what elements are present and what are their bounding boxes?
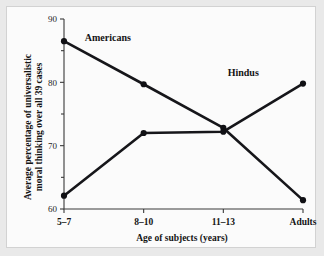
data-point-hindus-1 (141, 130, 147, 136)
x-category-label: 11–13 (212, 217, 235, 227)
data-point-hindus-0 (61, 193, 67, 199)
x-category-label: 8–10 (134, 217, 153, 227)
data-point-hindus-3 (300, 81, 306, 87)
data-point-hindus-2 (220, 129, 226, 135)
y-axis-tick-labels: 60708090 (48, 14, 58, 214)
series-label-americans: Americans (85, 32, 131, 43)
series-label-hindus: Hindus (228, 67, 259, 78)
figure-frame: 60708090 5–78–1011–13Adults AmericansHin… (6, 6, 316, 248)
series-line-hindus (64, 84, 303, 196)
series-annotations: AmericansHindus (85, 32, 259, 78)
line-chart-svg: 60708090 5–78–1011–13Adults AmericansHin… (7, 7, 317, 249)
y-axis-ticks (60, 19, 64, 209)
y-tick-label: 70 (48, 141, 58, 151)
axis-lines (64, 19, 303, 209)
x-axis-title: Age of subjects (years) (136, 233, 228, 244)
chart-series (64, 41, 303, 200)
y-axis-title-line2: moral thinking over all 39 cases (34, 63, 44, 192)
y-axis-title-line1: Average percentage of universalistic (23, 54, 33, 200)
chart-plot-area: 60708090 5–78–1011–13Adults AmericansHin… (7, 7, 315, 247)
x-axis-category-labels: 5–78–1011–13Adults (57, 217, 317, 227)
chart-data-markers (61, 38, 306, 203)
data-point-americans-1 (141, 81, 147, 87)
y-tick-label: 90 (48, 14, 58, 24)
data-point-americans-0 (61, 38, 67, 44)
y-tick-label: 80 (48, 78, 58, 88)
chart-axes (64, 19, 303, 209)
series-line-americans (64, 41, 303, 200)
x-axis-ticks (64, 209, 303, 213)
x-category-label: 5–7 (57, 217, 72, 227)
data-point-americans-3 (300, 197, 306, 203)
y-tick-label: 60 (48, 204, 58, 214)
x-category-label: Adults (290, 217, 317, 227)
